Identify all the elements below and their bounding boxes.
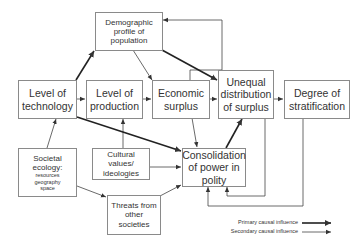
arrow-demographic-economic	[133, 50, 152, 80]
arrow-tech-demographic	[76, 51, 94, 80]
node-label: profile of	[114, 27, 145, 36]
arrow-economic-consolidation	[192, 118, 197, 147]
node-sublabel: space	[40, 185, 55, 191]
node-label: societies	[118, 220, 149, 229]
node-unequal-distribution: Unequal distribution of surplus	[218, 70, 274, 119]
node-label: values/	[108, 159, 133, 168]
node-label: production	[90, 100, 139, 112]
node-label: Demographic	[105, 18, 153, 27]
node-cultural-values: Cultural values/ ideologies	[92, 148, 150, 180]
node-label: Level of	[29, 87, 66, 99]
node-label: polity	[202, 174, 227, 186]
causal-links	[0, 0, 364, 251]
arrow-tech-consolidation	[77, 117, 181, 151]
node-level-of-production: Level of production	[86, 80, 143, 119]
node-societal-ecology: Societal ecology: resources geography sp…	[18, 148, 77, 197]
node-label: Economic	[158, 87, 204, 99]
arrow-consolidation-unequal	[226, 119, 242, 148]
node-demographic-profile: Demographic profile of population	[95, 12, 163, 51]
node-label: ecology:	[33, 163, 63, 172]
node-consolidation-of-power: Consolidation of power in polity	[182, 148, 246, 187]
node-label: distribution	[221, 88, 272, 100]
node-label: other	[125, 210, 143, 219]
node-label: technology	[22, 100, 73, 112]
node-label: population	[111, 36, 148, 45]
node-label: stratification	[289, 100, 345, 112]
arrow-demographic-unequal	[162, 50, 217, 80]
node-label: Unequal	[226, 76, 265, 88]
node-label: Consolidation	[182, 149, 246, 161]
node-label: Cultural	[107, 150, 135, 159]
node-label: Level of	[96, 87, 133, 99]
node-degree-of-stratification: Degree of stratification	[284, 80, 350, 119]
arrow-ecology-technology	[47, 119, 56, 148]
arrow-economic-demographic	[163, 20, 222, 70]
legend-secondary-label: Secondary causal influence	[200, 227, 298, 236]
node-economic-surplus: Economic surplus	[152, 80, 210, 119]
arrow-ecology-threats	[77, 186, 106, 197]
node-label: Degree of	[294, 87, 340, 99]
node-level-of-technology: Level of technology	[18, 80, 77, 119]
node-label: Societal	[33, 154, 61, 163]
node-label: ideologies	[103, 169, 139, 178]
node-label: surplus	[164, 100, 198, 112]
node-label: Threats from	[111, 201, 156, 210]
legend-primary-label: Primary causal influence	[200, 218, 298, 227]
node-label: of power in	[188, 161, 239, 173]
node-label: of surplus	[223, 101, 269, 113]
node-threats-from-other-societies: Threats from other societies	[107, 195, 161, 235]
legend: Primary causal influence Secondary causa…	[200, 218, 298, 236]
arrow-threats-consolidation	[160, 185, 181, 196]
